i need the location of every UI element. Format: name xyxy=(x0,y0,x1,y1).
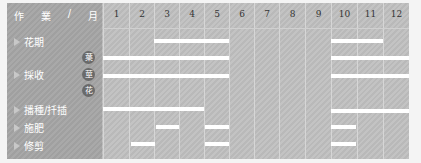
row-label-text: 花期 xyxy=(24,34,44,49)
month-column: 11 xyxy=(357,3,383,159)
month-label: 9 xyxy=(306,9,331,19)
bar-flowering xyxy=(331,39,383,43)
header-char: 月 xyxy=(88,8,98,23)
row-label-text: 施肥 xyxy=(24,120,44,135)
row-label-text: 修剪 xyxy=(24,138,44,153)
month-column: 2 xyxy=(129,3,154,159)
month-label: 2 xyxy=(130,9,154,19)
month-label: 3 xyxy=(155,9,179,19)
bar-harvest-leaf xyxy=(331,56,409,60)
month-column: 9 xyxy=(305,3,331,159)
triangle-bullet-icon xyxy=(14,142,20,150)
month-column: 10 xyxy=(331,3,357,159)
triangle-bullet-icon xyxy=(14,124,20,132)
header-divider xyxy=(103,28,409,29)
month-label: 6 xyxy=(230,9,254,19)
row-label-text: 採收 xyxy=(24,67,44,82)
month-label: 12 xyxy=(384,9,409,19)
header-char: / xyxy=(68,8,71,23)
bar-pruning xyxy=(131,142,155,146)
row-label-text: 播種/扦插 xyxy=(24,102,67,117)
month-column: 6 xyxy=(229,3,254,159)
triangle-bullet-icon xyxy=(14,106,20,114)
month-label: 5 xyxy=(205,9,229,19)
row-label-flowering: 花期 xyxy=(14,34,44,49)
month-column: 5 xyxy=(204,3,229,159)
badge-flower: 花 xyxy=(82,84,95,97)
month-label: 11 xyxy=(358,9,383,19)
bar-harvest-stem xyxy=(331,74,409,78)
bar-fertilizing xyxy=(331,125,356,129)
month-label: 4 xyxy=(180,9,204,19)
month-column: 8 xyxy=(279,3,305,159)
badge-stem: 莖 xyxy=(82,68,95,81)
bar-flowering xyxy=(154,39,229,43)
triangle-bullet-icon xyxy=(14,71,20,79)
month-column: 12 xyxy=(383,3,409,159)
header-char: 作 xyxy=(14,8,24,23)
row-label-pruning: 修剪 xyxy=(14,138,44,153)
header-title: 作 業 / 月 xyxy=(14,8,98,23)
month-column: 4 xyxy=(179,3,204,159)
badge-leaf: 葉 xyxy=(82,51,95,64)
bar-sowing xyxy=(103,107,204,111)
bar-pruning xyxy=(331,142,356,146)
row-label-sowing: 播種/扦插 xyxy=(14,102,67,117)
month-label: 10 xyxy=(332,9,357,19)
month-column: 3 xyxy=(154,3,179,159)
row-label-harvest: 採收 xyxy=(14,67,44,82)
bar-pruning xyxy=(205,142,229,146)
bar-harvest-stem xyxy=(103,74,229,78)
bar-fertilizing xyxy=(205,125,229,129)
header-char: 業 xyxy=(41,8,51,23)
bar-sowing xyxy=(331,109,409,113)
month-label: 8 xyxy=(280,9,305,19)
bar-fertilizing xyxy=(156,125,179,129)
row-label-fertilizing: 施肥 xyxy=(14,120,44,135)
month-column: 7 xyxy=(254,3,279,159)
month-label: 7 xyxy=(255,9,279,19)
bar-harvest-leaf xyxy=(103,56,229,60)
month-column: 1 xyxy=(103,3,129,159)
triangle-bullet-icon xyxy=(14,38,20,46)
month-label: 1 xyxy=(104,9,129,19)
